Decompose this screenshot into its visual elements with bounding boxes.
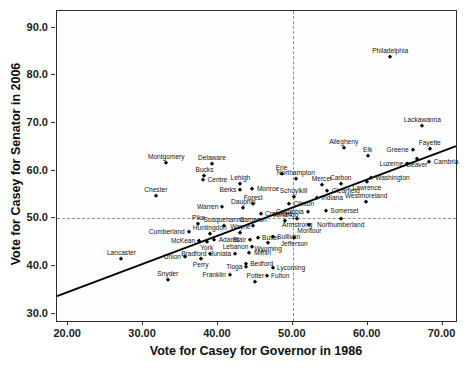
county-label-mifflin: Mifflin (254, 250, 271, 257)
county-label-fayette: Fayette (419, 140, 441, 147)
county-label-dauphin: Dauphin (231, 199, 256, 206)
county-label-monroe: Monroe (257, 186, 279, 193)
x-tick-label-20: 20.00 (53, 327, 81, 339)
county-label-sullivan: Sullivan (277, 233, 300, 240)
y-tick-mark-30 (51, 313, 55, 314)
y-tick-mark-80 (51, 74, 55, 75)
county-label-greene: Greene (387, 146, 409, 153)
county-label-montgomery: Montgomery (148, 154, 185, 161)
county-label-indiana: Indiana (321, 195, 343, 202)
x-tick-label-60: 60.00 (353, 327, 381, 339)
y-tick-mark-50 (51, 217, 55, 218)
county-label-northumberland: Northumberland (317, 222, 364, 229)
county-label-jefferson: Jefferson (281, 241, 308, 248)
x-axis-title: Vote for Casey for Governor in 1986 (150, 344, 362, 358)
county-label-beaver: Beaver (407, 162, 428, 169)
y-tick-label-50: 50.0 (27, 211, 48, 223)
county-label-chester: Chester (144, 186, 167, 193)
x-tick-label-40: 40.00 (203, 327, 231, 339)
county-label-lancaster: Lancaster (107, 250, 136, 257)
county-label-carbon: Carbon (330, 175, 352, 182)
x-tick-mark-30 (142, 321, 143, 325)
county-label-lackawanna: Lackawanna (404, 117, 441, 124)
y-tick-label-90: 90.0 (27, 21, 48, 33)
county-label-clinton: Clinton (294, 200, 315, 207)
county-label-allegheny: Allegheny (329, 139, 358, 146)
county-label-schuylkill: Schuylkill (280, 188, 307, 195)
county-label-bedford: Bedford (250, 261, 273, 268)
x-tick-mark-60 (367, 321, 368, 325)
county-label-tioga: Tioga (226, 263, 242, 270)
county-label-luzerne: Luzerne (379, 160, 403, 167)
county-label-bucks: Bucks (195, 167, 213, 174)
county-label-cambria: Cambria (434, 159, 459, 166)
y-tick-mark-90 (51, 27, 55, 28)
county-label-union: Union (164, 253, 181, 260)
county-label-elk: Elk (363, 147, 372, 154)
county-label-lehigh: Lehigh (230, 175, 250, 182)
county-label-mercer: Mercer (312, 176, 333, 183)
y-tick-mark-70 (51, 122, 55, 123)
y-tick-label-80: 80.0 (27, 68, 48, 80)
county-label-montour: Montour (297, 228, 321, 235)
county-label-philadelphia: Philadelphia (372, 48, 408, 55)
county-label-susquehanna: Susquehanna (204, 217, 245, 224)
county-label-perry: Perry (193, 262, 209, 269)
county-label-centre: Centre (207, 177, 227, 184)
county-label-cumberland: Cumberland (149, 229, 185, 236)
y-tick-label-60: 60.0 (27, 164, 48, 176)
county-label-erie: Erie (276, 165, 288, 172)
scatter-plot-figure: Vote for Casey for Senator in 2006 Phila… (0, 0, 464, 371)
x-tick-mark-50 (292, 321, 293, 325)
county-label-washington: Washington (375, 175, 410, 182)
county-label-snyder: Snyder (157, 271, 178, 278)
county-label-lycoming: Lycoming (277, 264, 305, 271)
y-tick-label-40: 40.0 (27, 259, 48, 271)
county-label-warren: Warren (197, 204, 218, 211)
x-tick-mark-40 (217, 321, 218, 325)
y-tick-mark-60 (51, 170, 55, 171)
county-label-fulton: Fulton (271, 273, 289, 280)
county-label-huntingdon: Huntingdon (193, 225, 227, 232)
plot-area: PhiladelphiaLackawannaFayetteGreeneCambr… (56, 10, 457, 322)
county-label-clearfield: Clearfield (332, 188, 360, 195)
county-label-pike: Pike (192, 215, 205, 222)
county-label-potter: Potter (247, 273, 265, 280)
county-label-franklin: Franklin (202, 272, 225, 279)
y-tick-mark-40 (51, 265, 55, 266)
x-tick-mark-70 (442, 321, 443, 325)
county-label-wayne: Wayne (230, 224, 250, 231)
county-label-juniata: Juniata (210, 251, 231, 258)
x-tick-label-70: 70.00 (428, 327, 456, 339)
county-label-westmoreland: Westmoreland (345, 193, 387, 200)
y-tick-label-30: 30.0 (27, 307, 48, 319)
county-label-somerset: Somerset (330, 208, 358, 215)
x-tick-label-50: 50.00 (278, 327, 306, 339)
y-tick-label-70: 70.0 (27, 116, 48, 128)
county-label-lebanon: Lebanon (223, 243, 249, 250)
county-label-delaware: Delaware (198, 155, 226, 162)
county-label-berks: Berks (220, 187, 237, 194)
county-label-mckean: McKean (171, 238, 195, 245)
y-axis-title: Vote for Casey for Senator in 2006 (9, 63, 23, 266)
x-tick-mark-20 (67, 321, 68, 325)
x-tick-label-30: 30.00 (128, 327, 156, 339)
